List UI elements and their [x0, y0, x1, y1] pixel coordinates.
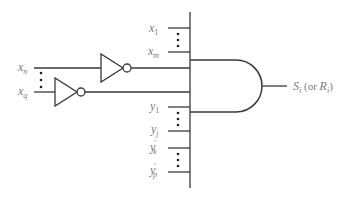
label-yp-prime: y′p — [149, 162, 157, 179]
label-xn: xn — [17, 60, 27, 76]
dots-y1-yj — [177, 112, 180, 115]
label-output: Si (or Ri) — [293, 79, 333, 95]
logic-diagram: x1 xm xn xq y1 yj y′k y′p Si (or Ri) — [0, 0, 344, 197]
circuit-svg: x1 xm xn xq y1 yj y′k y′p Si (or Ri) — [0, 0, 344, 197]
dots-xn-xq — [40, 72, 43, 75]
label-xq: xq — [17, 84, 27, 100]
and-gate-body — [190, 60, 262, 112]
dots-x1-xm — [177, 33, 180, 36]
label-x1: x1 — [148, 21, 158, 37]
inverter-xq-triangle — [55, 78, 77, 106]
label-y1: y1 — [149, 99, 159, 115]
label-yk-prime: y′k — [149, 139, 157, 156]
inverter-xn-triangle — [101, 54, 123, 82]
label-xm: xm — [147, 44, 159, 60]
label-yj: yj — [150, 122, 159, 138]
dots-yk-yp — [177, 153, 180, 156]
